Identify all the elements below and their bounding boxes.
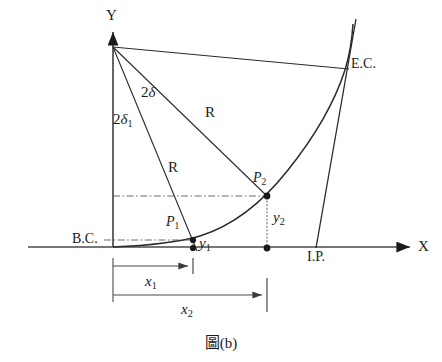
radius-line-to-p2: [113, 47, 268, 197]
ordinate-y2-sub: 2: [280, 216, 285, 227]
point-p2-label-base: P: [253, 170, 262, 185]
radius-line-to-p1: [113, 47, 197, 251]
angle-2delta-prefix: 2: [141, 84, 149, 100]
ordinate-y2-label: y2: [273, 210, 285, 227]
angle-2delta1-prefix: 2: [113, 111, 121, 127]
angle-2delta1-sub: 1: [127, 118, 132, 129]
abscissa-x2-label: x2: [181, 302, 193, 319]
radius-label-outer: R: [205, 105, 215, 120]
point-p1-label-sub: 1: [175, 221, 180, 231]
abscissa-x1-sub: 1: [152, 280, 157, 291]
ordinate-y1-base: y: [199, 235, 206, 251]
abscissa-x1-label: x1: [145, 274, 157, 291]
point-p2-label: P2: [253, 171, 266, 187]
abscissa-x2-sub: 2: [188, 308, 193, 319]
point-p1-label-base: P: [166, 214, 175, 229]
angle-2delta-symbol: δ: [149, 84, 156, 100]
point-p2-foot-marker: [264, 245, 271, 252]
ordinate-y1-sub: 1: [206, 242, 211, 253]
diagram-canvas: [0, 0, 442, 362]
angle-2delta1-label: 2δ1: [113, 112, 133, 129]
bc-label: B.C.: [72, 232, 98, 246]
point-p1-marker: [190, 237, 196, 243]
point-p2-label-sub: 2: [262, 177, 267, 187]
point-p1-foot-marker: [190, 245, 196, 251]
abscissa-x1-base: x: [145, 273, 152, 289]
ordinate-y1-label: y1: [199, 236, 211, 253]
figure-caption: 圖(b): [0, 331, 442, 352]
ip-label: I.P.: [307, 250, 325, 264]
point-p2-marker: [264, 193, 271, 200]
ec-label: E.C.: [351, 57, 376, 71]
ordinate-y2-base: y: [273, 209, 280, 225]
abscissa-x2-base: x: [181, 301, 188, 317]
long-chord-line: [113, 47, 349, 69]
point-p1-label: P1: [166, 215, 179, 231]
ip-tangent-line: [316, 19, 356, 248]
y-axis-label: Y: [106, 8, 117, 23]
figure-container: Y X B.C. E.C. I.P. P1 P2 R R 2δ 2δ1 y1 y…: [0, 0, 442, 362]
x-axis-label: X: [418, 239, 429, 254]
angle-2delta-label: 2δ: [141, 85, 155, 102]
radius-label-inner: R: [168, 160, 178, 175]
